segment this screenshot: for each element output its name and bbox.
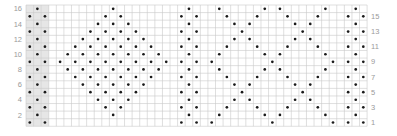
stitch-dot xyxy=(97,98,100,101)
stitch-dot xyxy=(112,23,115,26)
stitch-dot xyxy=(354,53,357,56)
stitch-dot xyxy=(157,68,160,71)
stitch-dot xyxy=(180,30,183,33)
stitch-dot xyxy=(286,45,289,48)
stitch-dot xyxy=(362,106,365,109)
stitch-dot xyxy=(112,114,115,117)
stitch-dot xyxy=(112,68,115,71)
stitch-dot xyxy=(188,114,191,117)
stitch-dot xyxy=(354,23,357,26)
stitch-dot xyxy=(36,83,39,86)
stitch-dot xyxy=(119,61,122,64)
stitch-dot xyxy=(127,98,130,101)
stitch-dot xyxy=(74,76,77,79)
stitch-dot xyxy=(66,53,69,56)
stitch-dot xyxy=(180,76,183,79)
stitch-dot xyxy=(104,61,107,64)
stitch-dot xyxy=(150,76,153,79)
stitch-dot xyxy=(263,68,266,71)
knitting-chart: 161412108642 15131197531 xyxy=(0,0,397,136)
stitch-dot xyxy=(36,7,39,10)
stitch-dot xyxy=(59,61,62,64)
stitch-dot xyxy=(82,38,85,41)
stitch-dot xyxy=(157,53,160,56)
stitch-dot xyxy=(28,15,31,18)
stitch-dot xyxy=(256,76,259,79)
stitch-dot xyxy=(89,61,92,64)
row-label: 4 xyxy=(18,95,22,104)
stitch-dot xyxy=(44,30,47,33)
row-label: 9 xyxy=(371,57,375,66)
stitch-dot xyxy=(354,38,357,41)
stitch-dot xyxy=(112,98,115,101)
stitch-dot xyxy=(309,23,312,26)
stitch-dot xyxy=(82,83,85,86)
stitch-dot xyxy=(233,23,236,26)
stitch-dot xyxy=(97,83,100,86)
row-label: 1 xyxy=(371,118,375,127)
stitch-dot xyxy=(89,91,92,94)
stitch-dot xyxy=(195,15,198,18)
row-label: 5 xyxy=(371,88,375,97)
stitch-dot xyxy=(294,23,297,26)
stitch-dot xyxy=(66,68,69,71)
stitch-dot xyxy=(180,121,183,124)
stitch-dot xyxy=(89,30,92,33)
stitch-dot xyxy=(332,121,335,124)
stitch-dot xyxy=(36,23,39,26)
stitch-dot xyxy=(104,91,107,94)
stitch-dot xyxy=(142,38,145,41)
stitch-dot xyxy=(28,76,31,79)
stitch-dot xyxy=(165,61,168,64)
stitch-dot xyxy=(362,30,365,33)
stitch-dot xyxy=(309,98,312,101)
stitch-dot xyxy=(112,83,115,86)
stitch-dot xyxy=(150,61,153,64)
row-label: 2 xyxy=(18,111,22,120)
stitch-dot xyxy=(104,76,107,79)
stitch-dot xyxy=(233,38,236,41)
stitch-dot xyxy=(112,53,115,56)
stitch-dot xyxy=(82,68,85,71)
stitch-dot xyxy=(294,38,297,41)
stitch-dot xyxy=(332,61,335,64)
stitch-dot xyxy=(324,68,327,71)
stitch-dot xyxy=(180,91,183,94)
stitch-dot xyxy=(44,61,47,64)
stitch-dot xyxy=(28,121,31,124)
stitch-dot xyxy=(36,53,39,56)
stitch-dot xyxy=(241,30,244,33)
stitch-dot xyxy=(354,83,357,86)
stitch-dot xyxy=(210,61,213,64)
stitch-dot xyxy=(233,98,236,101)
stitch-dot xyxy=(309,83,312,86)
row-label: 15 xyxy=(371,12,379,21)
stitch-dot xyxy=(142,83,145,86)
stitch-dot xyxy=(104,106,107,109)
stitch-dot xyxy=(324,7,327,10)
stitch-dot xyxy=(195,121,198,124)
stitch-dot xyxy=(271,61,274,64)
stitch-dot xyxy=(119,106,122,109)
stitch-dot xyxy=(195,106,198,109)
row-label: 8 xyxy=(18,65,22,74)
row-label: 10 xyxy=(14,50,22,59)
stitch-dot xyxy=(256,45,259,48)
stitch-dot xyxy=(210,121,213,124)
stitch-dot xyxy=(82,53,85,56)
stitch-dot xyxy=(112,7,115,10)
stitch-dot xyxy=(362,91,365,94)
stitch-dot xyxy=(301,91,304,94)
stitch-dot xyxy=(195,76,198,79)
stitch-dot xyxy=(28,91,31,94)
stitch-dot xyxy=(347,121,350,124)
row-label: 13 xyxy=(371,27,379,36)
stitch-dot xyxy=(218,53,221,56)
stitch-dot xyxy=(36,68,39,71)
stitch-dot xyxy=(188,23,191,26)
stitch-dot xyxy=(36,98,39,101)
stitch-dot xyxy=(180,61,183,64)
stitch-dot xyxy=(119,15,122,18)
stitch-dot xyxy=(119,45,122,48)
stitch-dot xyxy=(362,45,365,48)
